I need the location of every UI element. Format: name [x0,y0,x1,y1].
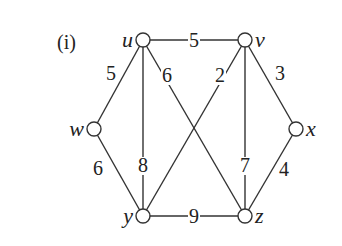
node-label-y: y [121,203,133,228]
edge-weight-v-x: 3 [275,62,285,84]
node-label-v: v [255,27,265,52]
node-w [87,122,101,136]
edge-weight-w-y: 6 [93,157,103,179]
edge-weight-u-w: 5 [106,62,116,84]
node-z [238,209,252,223]
node-label-z: z [254,203,264,228]
node-label-w: w [69,116,84,141]
graph-diagram: (i) 5586273649 uvwxyz [0,0,342,246]
node-label-u: u [122,27,133,52]
panel-label: (i) [57,31,76,54]
edge-weight-y-z: 9 [189,205,199,227]
edge-weight-v-y: 2 [215,64,225,86]
graph-svg: (i) 5586273649 uvwxyz [0,0,342,246]
nodes-group: uvwxyz [69,27,316,228]
edge-weight-u-z: 6 [162,64,172,86]
node-x [289,122,303,136]
edge-u-w [94,40,143,129]
edge-weight-u-v: 5 [189,29,199,51]
node-v [238,33,252,47]
node-u [136,33,150,47]
edge-weight-x-z: 4 [279,158,289,180]
node-y [136,209,150,223]
edges-group: 5586273649 [92,29,296,227]
edge-weight-u-y: 8 [138,154,148,176]
node-label-x: x [305,116,316,141]
edge-weight-v-z: 7 [240,154,250,176]
edge-v-x [245,40,296,129]
